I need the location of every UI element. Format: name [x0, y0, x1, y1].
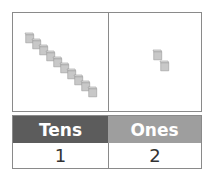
tens-value: 1: [13, 143, 109, 168]
place-value-table: Tens Ones 1 2: [12, 115, 202, 169]
base-ten-blocks-row: [12, 12, 202, 112]
tens-header: Tens: [13, 116, 108, 143]
ones-blocks-cell: [109, 13, 201, 111]
tens-blocks-cell: [13, 13, 109, 111]
header-row: Tens Ones: [13, 116, 201, 143]
ones-header: Ones: [108, 116, 201, 143]
value-row: 1 2: [13, 143, 201, 168]
unit-cubes-icon: [109, 13, 202, 111]
ones-value: 2: [109, 143, 201, 168]
ten-rod-icon: [13, 13, 108, 111]
